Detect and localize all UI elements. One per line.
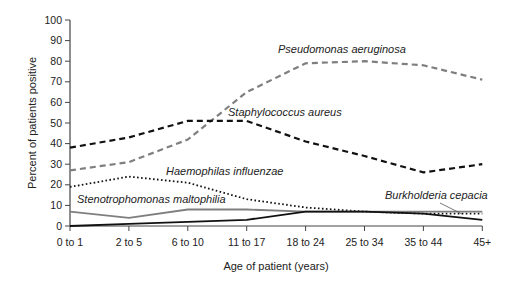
y-tick-label: 70: [50, 75, 62, 87]
y-tick-label: 60: [50, 96, 62, 108]
y-tick-label: 90: [50, 34, 62, 46]
x-tick-label: 25 to 34: [346, 236, 384, 248]
x-tick-label: 2 to 5: [116, 236, 142, 248]
chart-axes: 01020304050607080901000 to 12 to 56 to 1…: [26, 14, 491, 273]
y-tick-label: 80: [50, 55, 62, 67]
series-line-burkholderia-cepacia: [70, 212, 482, 226]
y-axis-title: Percent of patients positive: [26, 57, 38, 189]
y-tick-label: 10: [50, 199, 62, 211]
line-chart: 01020304050607080901000 to 12 to 56 to 1…: [0, 0, 514, 282]
x-axis-title: Age of patient (years): [223, 260, 328, 272]
y-tick-label: 40: [50, 137, 62, 149]
x-tick-label: 35 to 44: [404, 236, 442, 248]
y-tick-label: 0: [56, 220, 62, 232]
x-tick-label: 6 to 10: [172, 236, 204, 248]
y-tick-label: 100: [44, 14, 62, 26]
series-label: Stenotrophomonas maltophilia: [77, 193, 226, 205]
x-tick-label: 18 to 24: [287, 236, 325, 248]
x-tick-label: 45+: [473, 236, 491, 248]
x-tick-label: 11 to 17: [228, 236, 265, 248]
series-label: Pseudomonas aeruginosa: [278, 43, 406, 55]
y-tick-label: 20: [50, 178, 62, 190]
series-label: Haemophilas influenzae: [166, 165, 283, 177]
chart-labels: Pseudomonas aeruginosaStaphylococcus aur…: [77, 43, 488, 214]
series-label: Staphylococcus aureus: [228, 106, 342, 118]
y-tick-label: 30: [50, 158, 62, 170]
series-label: Burkholderia cepacia: [385, 189, 488, 201]
x-tick-label: 0 to 1: [57, 236, 83, 248]
y-tick-label: 50: [50, 117, 62, 129]
